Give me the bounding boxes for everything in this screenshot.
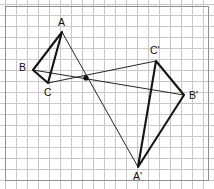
- vertex-label-b-prime: B': [189, 89, 198, 101]
- vertex-label-c: C: [44, 86, 52, 98]
- figure-canvas: ABCA'B'C': [0, 0, 214, 189]
- vertex-labels: ABCA'B'C': [19, 16, 198, 182]
- connector-c: [48, 61, 156, 83]
- vertex-label-c-prime: C': [150, 44, 160, 56]
- rotation-center-point: [83, 75, 88, 80]
- center-point-marker: [83, 75, 88, 80]
- triangle-abc: [33, 32, 62, 83]
- vertex-label-a-prime: A': [133, 170, 142, 182]
- triangle-edges: [33, 32, 184, 167]
- geometry-figure: ABCA'B'C': [0, 0, 214, 189]
- figure-border: [6, 7, 209, 181]
- connector-b: [33, 70, 184, 95]
- vertex-label-b: B: [19, 61, 26, 73]
- vertex-label-a: A: [58, 16, 65, 28]
